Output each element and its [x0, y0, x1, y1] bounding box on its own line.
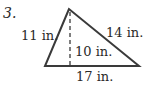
triangle-figure — [0, 0, 144, 86]
height-label: 10 in. — [75, 45, 112, 58]
base-label: 17 in. — [76, 70, 113, 83]
left-side-label: 11 in. — [21, 29, 58, 42]
right-side-label: 14 in. — [106, 26, 143, 39]
